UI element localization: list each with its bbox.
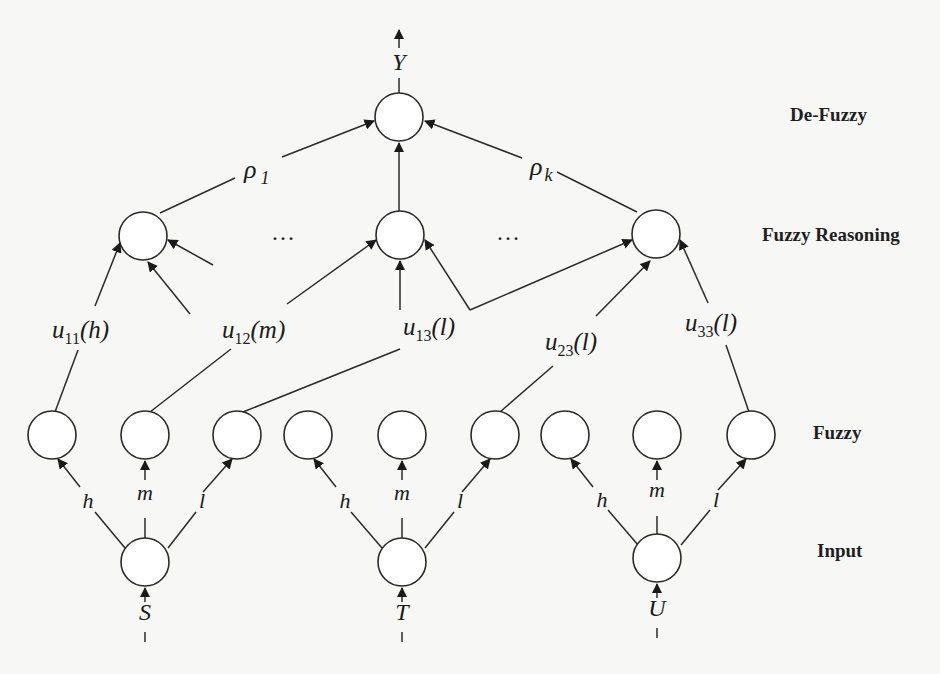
edge-fuzzy3-u13 — [243, 349, 400, 412]
edge-fuzzy1-u11 — [55, 350, 78, 412]
edge-s-h-b — [95, 512, 125, 548]
edge-t-l-a — [462, 459, 490, 492]
output-label: Y — [392, 49, 408, 75]
weight-rho-k: ρk — [529, 152, 553, 185]
edge-u-h-b — [608, 510, 638, 545]
rule-term-u12: u12(m) — [222, 316, 285, 347]
edge-fuzzy2-u12 — [150, 349, 231, 412]
branch-u-l: l — [713, 487, 719, 512]
ellipsis-left: … — [271, 219, 295, 245]
fuzzy-node-t-h — [284, 411, 332, 459]
edge-u33-rk — [680, 240, 708, 303]
input-node-t — [378, 538, 426, 586]
edge-in-r2-c — [425, 240, 470, 310]
edge-u12-r2 — [287, 240, 376, 304]
input-node-u — [633, 534, 681, 582]
edge-u-l-b — [681, 510, 710, 545]
input-label-s: S — [139, 599, 151, 625]
edge-in-r1-b — [148, 262, 190, 314]
rule-term-u13: u13(l) — [403, 313, 455, 344]
edge-in-r1-c — [168, 240, 213, 265]
input-label-u: U — [648, 595, 667, 621]
edge-rk-out-b — [425, 121, 522, 158]
diagram-canvas: Y ρ1 ρk … … u11(h) u12(m) u13(l) u23(l) … — [0, 0, 940, 674]
layer-label-fuzzy-reasoning: Fuzzy Reasoning — [762, 224, 900, 246]
layer-label-input: Input — [817, 540, 862, 562]
edge-in-rk-a — [470, 240, 632, 310]
fuzzy-node-s-m — [121, 411, 169, 459]
layer-label-fuzzy: Fuzzy — [813, 422, 862, 444]
branch-s-h: h — [83, 488, 94, 513]
fuzzy-node-u-l — [727, 411, 775, 459]
branch-s-m: m — [137, 480, 153, 505]
edge-t-l-b — [425, 512, 454, 548]
edge-u-l-a — [718, 459, 746, 490]
weight-rho-1: ρ1 — [243, 155, 269, 188]
rule-term-u23: u23(l) — [545, 328, 597, 359]
edge-t-h-b — [351, 512, 382, 548]
reasoning-node-2 — [376, 211, 424, 259]
output-node — [375, 93, 423, 141]
fuzzy-neural-network-diagram: Y ρ1 ρk … … u11(h) u12(m) u13(l) u23(l) … — [0, 0, 940, 674]
input-node-s — [121, 538, 169, 586]
rule-term-u33: u33(l) — [685, 309, 737, 340]
branch-t-m: m — [394, 480, 410, 505]
edge-s-l-b — [168, 512, 196, 548]
fuzzy-node-t-l — [471, 411, 519, 459]
input-label-t: T — [395, 599, 410, 625]
reasoning-node-k — [632, 210, 680, 258]
branch-s-l: l — [199, 488, 205, 513]
fuzzy-node-s-l — [213, 411, 261, 459]
branch-u-m: m — [649, 477, 665, 502]
edge-s-h-a — [58, 459, 80, 487]
edge-u23-rk — [596, 261, 650, 316]
fuzzy-node-s-h — [28, 411, 76, 459]
branch-t-l: l — [457, 488, 463, 513]
rule-term-u11: u11(h) — [52, 316, 109, 347]
branch-u-h: h — [597, 487, 608, 512]
edge-t-h-a — [314, 459, 336, 487]
edge-u-h-a — [571, 459, 593, 487]
fuzzy-node-t-m — [378, 411, 426, 459]
edge-fuzzy6-u23 — [500, 366, 553, 412]
edge-rk-out-a — [557, 172, 637, 212]
fuzzy-node-u-m — [633, 411, 681, 459]
ellipsis-right: … — [496, 219, 520, 245]
branch-t-h: h — [340, 488, 351, 513]
reasoning-node-1 — [119, 212, 167, 260]
edge-r1-out-a — [160, 178, 235, 213]
edge-u11-r1 — [95, 243, 120, 306]
edge-s-l-a — [203, 459, 232, 492]
edge-r1-out-b — [282, 121, 374, 157]
edge-fuzzy9-u33 — [726, 345, 749, 412]
fuzzy-node-u-h — [541, 411, 589, 459]
layer-label-defuzzy: De-Fuzzy — [790, 104, 867, 126]
